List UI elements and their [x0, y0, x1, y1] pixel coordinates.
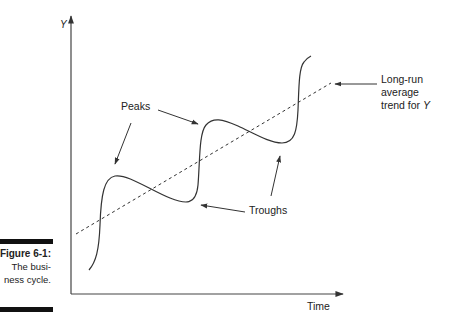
peaks-label: Peaks	[121, 100, 150, 113]
peaks-arrow-1	[115, 123, 131, 164]
business-cycle-chart	[0, 0, 454, 324]
trend-label-line-3: trend for Y	[381, 99, 430, 112]
trend-label-prefix: trend for	[381, 99, 423, 111]
trend-label: Long-run average trend for Y	[381, 73, 430, 112]
peaks-arrow-2	[158, 110, 198, 124]
trend-label-line-1: Long-run	[381, 73, 430, 86]
x-axis-label: Time	[307, 300, 330, 313]
trend-label-line-2: average	[381, 86, 430, 99]
business-cycle-figure: Figure 6-1: The busi- ness cycle. Y Time…	[0, 0, 454, 324]
troughs-arrow-1	[201, 205, 245, 212]
trend-line	[76, 83, 331, 234]
trend-label-variable: Y	[423, 99, 430, 111]
y-axis-label: Y	[60, 18, 67, 31]
business-cycle-curve	[89, 56, 311, 270]
troughs-arrow-2	[271, 156, 280, 196]
troughs-label: Troughs	[249, 204, 287, 217]
